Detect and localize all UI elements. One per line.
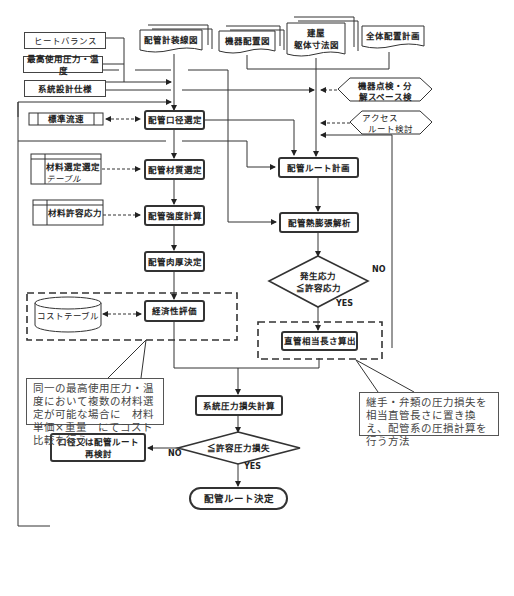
label-material-selection-table-1: 材料選定選定 bbox=[46, 161, 102, 173]
process-economic-eval: 経済性評価 bbox=[144, 300, 205, 322]
process-wall-thickness: 配管肉厚決定 bbox=[144, 251, 205, 272]
pressure-no-label: NO bbox=[168, 449, 182, 458]
doc-overall-layout-plan: 全体配置計画 bbox=[362, 30, 424, 42]
decision-pressure-loss-label: ≦許容圧力損失 bbox=[200, 442, 276, 454]
process-system-pressure-loss: 系統圧力損失計算 bbox=[195, 395, 283, 416]
doc-equipment-layout: 機器配置図 bbox=[219, 35, 275, 47]
recheck-label-2: 再検討 bbox=[85, 448, 112, 460]
decision-stress-label-2: ≦許容応力 bbox=[290, 282, 346, 294]
stress-yes-label: YES bbox=[336, 299, 353, 308]
input-system-design-spec: 系統設計仕様 bbox=[24, 80, 106, 97]
consideration-access-2: ルート検討 bbox=[368, 123, 424, 135]
input-heat-balance: ヒートバランス bbox=[24, 32, 106, 49]
doc-building-2: 躯体寸法図 bbox=[287, 39, 345, 51]
process-strength-calc: 配管強度計算 bbox=[144, 205, 205, 226]
process-equiv-length: 直管相当長さ算出 bbox=[281, 331, 358, 351]
label-standard-flow: 標準流速 bbox=[38, 113, 94, 125]
decision-stress-label-1: 発生応力 bbox=[290, 270, 346, 282]
process-diameter-selection: 配管口径選定 bbox=[144, 110, 205, 130]
process-thermal-expansion: 配管熱膨張解析 bbox=[279, 212, 359, 233]
input-max-pressure-temp: 最高使用圧力・温度 bbox=[23, 56, 103, 73]
label-cost-table: コストテーブル bbox=[36, 310, 100, 322]
consideration-maintenance-2: 解スペース検 bbox=[350, 91, 420, 103]
label-material-allowable-stress: 材料許容応力 bbox=[48, 207, 104, 219]
doc-building-1: 建屋 bbox=[287, 27, 345, 39]
process-route-plan: 配管ルート計画 bbox=[278, 157, 359, 178]
process-material-selection: 配管材質選定 bbox=[144, 159, 205, 180]
cost-comparison-note: 同一の最高使用圧力・温度において複数の材料選定が可能な場合に 材料単価×重量 に… bbox=[26, 378, 164, 425]
stress-no-label: NO bbox=[372, 265, 386, 274]
terminal-route-decided: 配管ルート決定 bbox=[189, 487, 288, 510]
doc-piping-system-diagram: 配管計装線図 bbox=[140, 34, 202, 46]
equiv-length-note: 継手・弁類の圧力損失を相当直管長さに置き換え、配管系の圧損計算を行う方法 bbox=[359, 392, 499, 436]
label-material-selection-table-2: テーブル bbox=[46, 173, 102, 185]
pressure-yes-label: YES bbox=[244, 462, 261, 471]
